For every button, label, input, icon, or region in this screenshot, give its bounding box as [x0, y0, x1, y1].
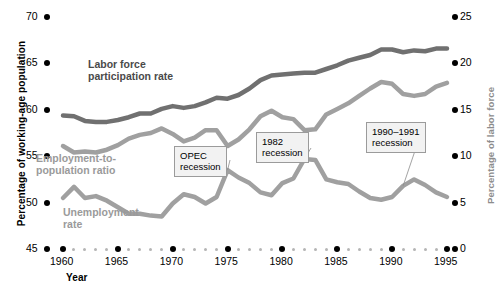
chart-canvas: Percentage of working-age population Per… — [0, 0, 502, 300]
annotation-line2: recession — [262, 147, 303, 158]
series-label-employment-to-population-ratio: Employment-to- population ratio — [36, 152, 116, 176]
annotation-opec-recession: OPEC recession — [174, 146, 227, 177]
series-label-unemployment-rate: Unemployment rate — [63, 206, 139, 230]
annotation-line2: recession — [372, 137, 420, 148]
callout-leader-lines — [0, 0, 502, 300]
annotation-line1: OPEC — [180, 150, 221, 161]
series-label-line1: Employment-to- — [36, 152, 116, 164]
series-label-line2: rate — [63, 218, 139, 230]
annotation-line1: 1990–1991 — [372, 126, 420, 137]
annotation-leader-line — [228, 160, 230, 170]
series-label-labor-force-participation-rate: Labor force participation rate — [88, 58, 173, 82]
annotation-1990-1991-recession: 1990–1991 recession — [366, 122, 426, 153]
series-label-line1: Unemployment — [63, 206, 139, 218]
series-label-line2: population ratio — [36, 164, 116, 176]
series-label-line2: participation rate — [88, 70, 173, 82]
annotation-line1: 1982 — [262, 136, 303, 147]
series-label-line1: Labor force — [88, 58, 173, 70]
annotation-line2: recession — [180, 161, 221, 172]
annotation-1982-recession: 1982 recession — [256, 132, 309, 163]
